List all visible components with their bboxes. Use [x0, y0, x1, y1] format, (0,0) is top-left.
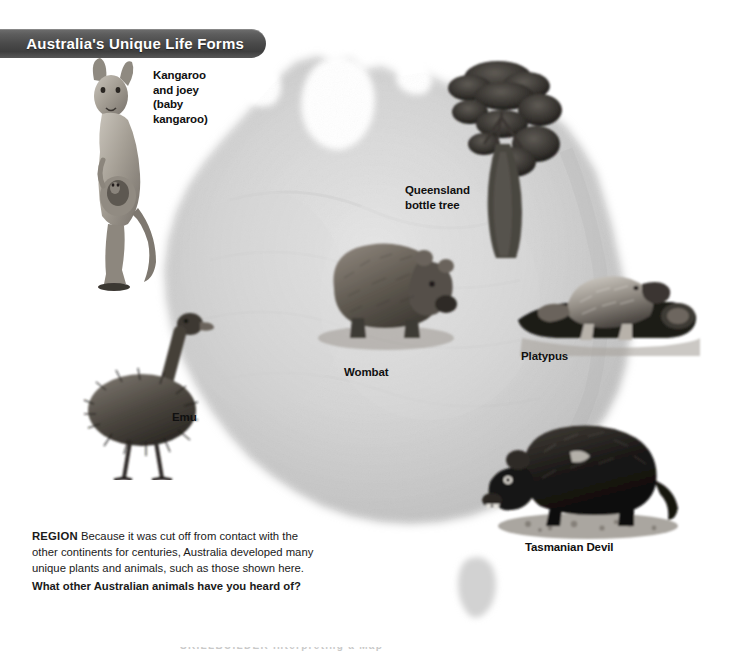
title-banner: Australia's Unique Life Forms	[0, 29, 266, 58]
page-title: Australia's Unique Life Forms	[26, 35, 244, 52]
tasmanian-devil-photo	[478, 408, 683, 540]
caption-question: What other Australian animals have you h…	[32, 578, 322, 594]
label-emu: Emu	[172, 410, 197, 425]
label-tasmanian-devil: Tasmanian Devil	[525, 540, 613, 555]
footer-clipped-label: SKILLBUILDER Interpreting a Map	[180, 647, 600, 651]
figure-page: Australia's Unique Life Forms	[0, 0, 733, 659]
map-north-coast	[238, 57, 432, 101]
footer-clipped-text: SKILLBUILDER Interpreting a Map	[180, 647, 600, 659]
region-caption: REGION Because it was cut off from conta…	[32, 528, 322, 594]
wombat-photo	[300, 222, 470, 357]
region-tag: REGION	[32, 530, 78, 542]
map-tasmania	[458, 557, 496, 617]
map-gulf	[246, 57, 375, 151]
label-wombat: Wombat	[344, 365, 389, 380]
label-kangaroo: Kangaroo and joey (baby kangaroo)	[153, 68, 208, 126]
label-platypus: Platypus	[521, 349, 568, 364]
emu-photo	[80, 300, 220, 480]
label-bottle-tree: Queensland bottle tree	[405, 183, 470, 212]
platypus-photo	[512, 258, 704, 358]
